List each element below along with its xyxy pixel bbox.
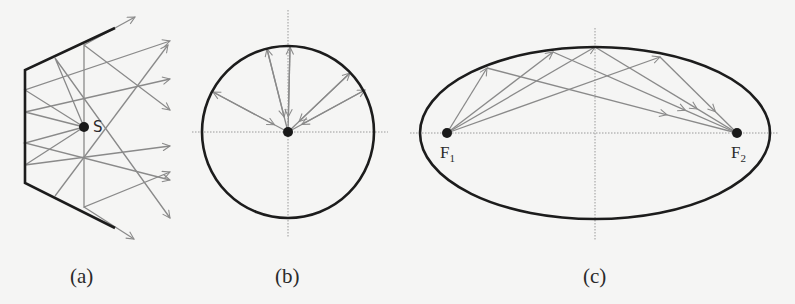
rays-b [213, 47, 365, 132]
center-point [283, 127, 293, 137]
focus-f2-label: F2 [731, 143, 746, 164]
focus-f1 [442, 128, 452, 138]
panel-b: (b) [192, 10, 388, 288]
caption-a: (a) [70, 264, 93, 288]
panel-c: F1 F2 (c) [410, 28, 778, 288]
reflected-ray [487, 68, 667, 115]
panel-a: S (a) [25, 17, 170, 288]
light-ray [84, 45, 170, 127]
caption-c: (c) [583, 264, 606, 288]
reflector-figure: S (a) (b) F1 F2 (c) [0, 0, 795, 304]
incident-ray [447, 52, 553, 133]
reflected-ray [299, 73, 350, 121]
light-ray [84, 207, 134, 239]
light-ray [55, 45, 168, 196]
reflected-ray [288, 47, 290, 117]
focus-f1-label: F1 [440, 143, 455, 164]
reflected-ray [302, 90, 365, 124]
rays-c [447, 47, 737, 133]
incident-ray [447, 68, 487, 133]
light-ray [55, 58, 170, 218]
focus-f2 [732, 128, 742, 138]
reflected-ray [267, 49, 284, 117]
caption-b: (b) [275, 264, 300, 288]
source-label: S [93, 118, 103, 136]
source-point-s [79, 122, 89, 132]
reflected-ray [213, 92, 275, 125]
reflected-ray [553, 52, 685, 110]
